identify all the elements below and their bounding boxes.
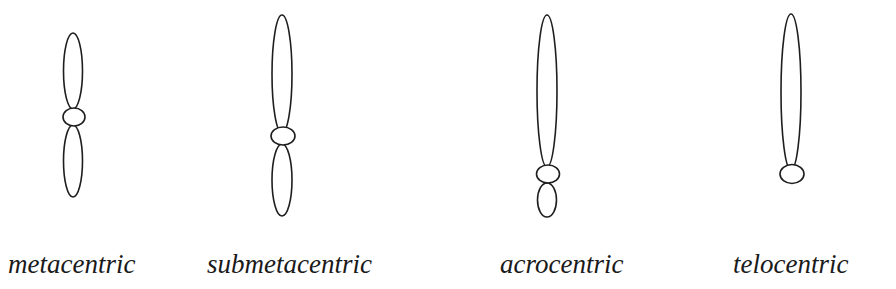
centromere <box>537 165 560 183</box>
chromosome-submetacentric <box>271 15 295 216</box>
lower-arm <box>538 183 557 217</box>
chromosome-diagram <box>0 0 896 289</box>
chromosome-acrocentric <box>537 15 560 217</box>
upper-arm <box>781 14 801 170</box>
label-telocentric: telocentric <box>733 247 848 281</box>
label-metacentric: metacentric <box>8 247 135 281</box>
label-submetacentric: submetacentric <box>207 247 372 281</box>
centromere <box>780 165 804 184</box>
centromere <box>63 108 85 126</box>
upper-arm <box>537 15 557 167</box>
chromosome-telocentric <box>780 14 804 184</box>
upper-arm <box>272 15 292 133</box>
lower-arm <box>64 125 83 197</box>
upper-arm <box>64 33 83 109</box>
label-acrocentric: acrocentric <box>500 247 623 281</box>
chromosome-metacentric <box>63 33 85 197</box>
lower-arm <box>272 144 292 216</box>
centromere <box>271 127 295 145</box>
